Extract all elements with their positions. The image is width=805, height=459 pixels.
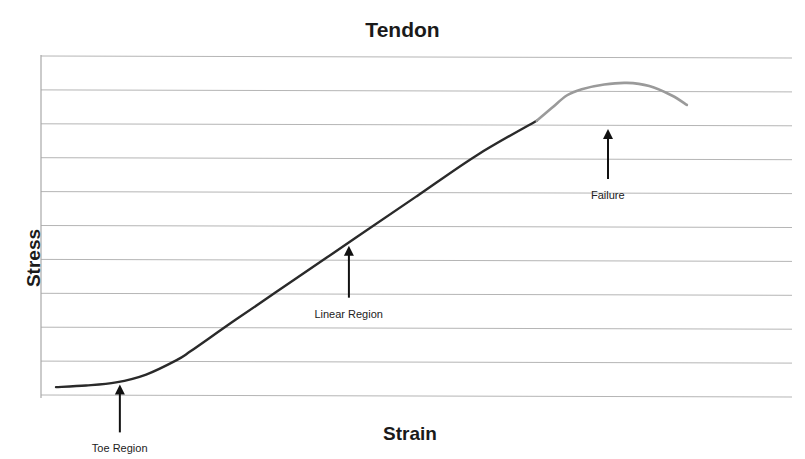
x-axis-label: Strain bbox=[360, 423, 460, 445]
gridline bbox=[41, 192, 792, 194]
gridline bbox=[41, 90, 792, 92]
arrow-up-icon bbox=[603, 129, 613, 139]
y-axis-label: Stress bbox=[4, 228, 64, 288]
arrow-up-icon bbox=[115, 384, 125, 394]
curve-failure bbox=[537, 83, 687, 121]
gridline bbox=[41, 56, 792, 58]
gridlines bbox=[41, 56, 792, 397]
gridline bbox=[41, 361, 792, 363]
annotation-toe-region: Toe Region bbox=[92, 442, 148, 454]
curve-toe-linear bbox=[56, 121, 537, 387]
gridline bbox=[41, 259, 792, 261]
plot-area bbox=[0, 0, 805, 459]
gridline bbox=[41, 395, 792, 397]
annotation-arrows bbox=[115, 129, 613, 432]
annotation-failure: Failure bbox=[591, 189, 625, 201]
gridline bbox=[41, 226, 792, 228]
gridline bbox=[41, 293, 792, 295]
annotation-linear-region: Linear Region bbox=[314, 308, 383, 320]
gridline bbox=[41, 158, 792, 160]
arrow-up-icon bbox=[344, 246, 354, 256]
gridline bbox=[41, 327, 792, 329]
gridline bbox=[41, 124, 792, 126]
